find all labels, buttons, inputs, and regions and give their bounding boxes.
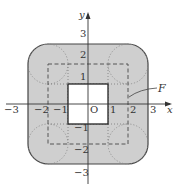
y-axis-arrow-icon — [86, 12, 91, 19]
origin-label: O — [90, 104, 98, 115]
region-f-label: F — [157, 82, 166, 95]
x-axis-label: x — [167, 104, 173, 115]
y-tick-label: 1 — [80, 71, 86, 82]
y-tick-label: −3 — [74, 167, 89, 178]
x-tick-label: 1 — [110, 104, 116, 115]
x-tick-label: 2 — [130, 104, 136, 115]
x-tick-label: −1 — [53, 104, 68, 115]
x-tick-label: −2 — [34, 104, 49, 115]
x-tick-label: 3 — [150, 104, 156, 115]
y-axis-label: y — [78, 9, 85, 20]
region-diagram: x y O −3 −2 −1 1 2 3 3 2 1 −1 −2 −3 F — [0, 0, 181, 195]
y-tick-label: −1 — [74, 122, 89, 133]
y-tick-label: 2 — [80, 49, 86, 60]
y-tick-label: 3 — [80, 28, 86, 39]
y-tick-label: −2 — [74, 144, 89, 155]
x-tick-label: −3 — [4, 104, 19, 115]
